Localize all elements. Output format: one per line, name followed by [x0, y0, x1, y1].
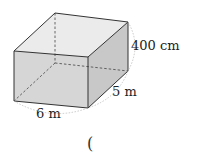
width-label: 6 m — [36, 106, 61, 121]
depth-label: 5 m — [112, 84, 137, 99]
front-face — [14, 51, 88, 108]
answer-blank: ( — [87, 134, 93, 153]
prism-figure — [0, 0, 200, 160]
height-label: 400 cm — [131, 38, 180, 53]
